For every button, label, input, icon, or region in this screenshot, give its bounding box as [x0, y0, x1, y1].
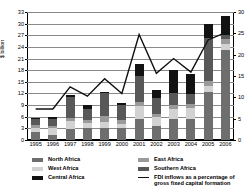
bar-segment-southern-africa	[169, 93, 178, 105]
y-tick-label-left: 15	[18, 79, 24, 85]
x-tick-label: 2000	[116, 141, 128, 147]
bar-column	[204, 24, 213, 140]
bar-column	[117, 103, 126, 140]
bar-segment-east-africa	[169, 105, 178, 109]
y-tick-mark-left	[25, 70, 27, 71]
bar-column	[31, 118, 40, 140]
legend-label-fdi-line1: FDI inflows as a percentage of	[154, 174, 235, 180]
y-tick-mark-left	[25, 82, 27, 83]
y-tick-mark-right	[234, 33, 236, 34]
bar-segment-central-africa	[48, 117, 57, 119]
y-tick-label-right: 30	[238, 9, 244, 15]
y-tick-label-right: 5	[238, 116, 241, 122]
y-tick-mark-left	[25, 117, 27, 118]
bar-column	[100, 92, 109, 140]
y-tick-mark-left	[25, 47, 27, 48]
bar-segment-west-africa	[66, 121, 75, 129]
bar-segment-west-africa	[117, 124, 126, 128]
bar-segment-southern-africa	[117, 105, 126, 120]
legend-label-fdi-percentage: FDI inflows as a percentage of gross fix…	[154, 174, 235, 187]
legend-item-central-africa[interactable]: Central Africa	[32, 174, 84, 183]
bar-segment-east-africa	[66, 118, 75, 122]
legend-item-north-africa[interactable]: North Africa	[32, 156, 84, 165]
y-tick-label-left: 3	[21, 125, 24, 131]
bar-segment-central-africa	[221, 16, 230, 35]
bar-segment-east-africa	[135, 102, 144, 105]
x-axis-labels: 1995199619971998199920002001200220032004…	[27, 141, 234, 151]
legend-swatch-icon-west-africa	[32, 167, 43, 171]
y-axis-label: $ billion	[0, 40, 5, 58]
x-tick-label: 2004	[185, 141, 197, 147]
bar-segment-southern-africa	[152, 98, 161, 114]
bar-segment-north-africa	[152, 126, 161, 140]
legend-item-southern-africa[interactable]: Southern Africa	[138, 165, 235, 174]
bar-segment-central-africa	[100, 92, 109, 93]
bar-column	[186, 74, 195, 140]
x-tick-label: 1995	[29, 141, 41, 147]
x-tick-label: 1996	[47, 141, 59, 147]
x-tick-label: 1997	[64, 141, 76, 147]
bar-segment-west-africa	[186, 108, 195, 120]
y-tick-mark-left	[25, 35, 27, 36]
bar-segment-southern-africa	[100, 92, 109, 116]
legend-label-west-africa: West Africa	[48, 165, 78, 171]
legend-label-north-africa: North Africa	[48, 156, 80, 162]
bar-segment-west-africa	[169, 109, 178, 119]
y-tick-label-right: 20	[238, 52, 244, 58]
x-tick-label: 1998	[81, 141, 93, 147]
bar-segment-north-africa	[221, 50, 230, 140]
bar-column	[152, 90, 161, 140]
y-tick-mark-right	[234, 76, 236, 77]
plot-area	[27, 12, 234, 140]
legend-label-fdi-line2: gross fixed capital formation	[154, 180, 230, 186]
y-tick-label-left: 6	[21, 114, 24, 120]
bar-segment-central-africa	[135, 64, 144, 76]
bar-segment-north-africa	[83, 128, 92, 140]
x-tick-label: 2003	[167, 141, 179, 147]
y-tick-label-left: 27	[18, 32, 24, 38]
bar-segment-west-africa	[83, 123, 92, 128]
legend-item-west-africa[interactable]: West Africa	[32, 165, 84, 174]
y-tick-mark-right	[234, 12, 236, 13]
legend-label-east-africa: East Africa	[154, 156, 183, 162]
bar-segment-west-africa	[31, 128, 40, 132]
y-tick-label-left: 0	[21, 137, 24, 143]
bar-segment-central-africa	[117, 103, 126, 105]
y-tick-mark-left	[25, 93, 27, 94]
bar-segment-east-africa	[117, 120, 126, 124]
bar-segment-central-africa	[152, 90, 161, 98]
bar-segment-north-africa	[31, 132, 40, 140]
bar-segment-central-africa	[66, 95, 75, 97]
bar-column	[135, 64, 144, 140]
legend-column-right: East Africa Southern Africa FDI inflows …	[138, 156, 235, 183]
y-tick-mark-right	[234, 97, 236, 98]
bar-segment-southern-africa	[83, 109, 92, 120]
legend-item-east-africa[interactable]: East Africa	[138, 156, 235, 165]
y-tick-label-left: 24	[18, 44, 24, 50]
bar-column	[66, 95, 75, 140]
bar-segment-east-africa	[100, 116, 109, 122]
chart-container: $ billion 03691215182124273033 051015202…	[0, 0, 252, 192]
x-tick-label: 1999	[98, 141, 110, 147]
legend-item-fdi-percentage[interactable]: FDI inflows as a percentage of gross fix…	[138, 174, 235, 183]
y-tick-label-left: 12	[18, 90, 24, 96]
bar-column	[169, 70, 178, 140]
legend-column-left: North Africa West Africa Central Africa	[32, 156, 84, 183]
y-tick-label-right: 15	[238, 73, 244, 79]
bar-segment-central-africa	[169, 70, 178, 93]
bar-segment-southern-africa	[31, 119, 40, 124]
legend-label-southern-africa: Southern Africa	[154, 165, 196, 171]
bar-series-group	[27, 12, 234, 140]
bar-segment-west-africa	[221, 44, 230, 50]
bar-segment-southern-africa	[48, 119, 57, 126]
y-tick-mark-right	[234, 119, 236, 120]
bar-segment-southern-africa	[186, 94, 195, 104]
legend-swatch-icon-southern-africa	[138, 167, 149, 171]
y-tick-label-left: 33	[18, 9, 24, 15]
bar-segment-west-africa	[100, 122, 109, 128]
y-tick-label-left: 21	[18, 56, 24, 62]
bar-column	[83, 105, 92, 140]
x-tick-label: 2002	[150, 141, 162, 147]
y-tick-mark-left	[25, 12, 27, 13]
bar-segment-southern-africa	[66, 97, 75, 118]
